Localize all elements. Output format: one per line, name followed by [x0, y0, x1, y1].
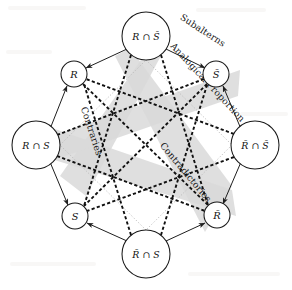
- node-bottom-label: R̄ ∩ S: [131, 249, 159, 260]
- node-lower-right-label: R̄: [212, 210, 221, 221]
- node-bottom[interactable]: R̄ ∩ S: [122, 230, 170, 278]
- node-left[interactable]: R ∩ S: [12, 121, 60, 169]
- node-lower-left[interactable]: S: [62, 203, 88, 229]
- node-right-label: R̄ ∩ S̄: [240, 140, 268, 151]
- node-top-label: R ∩ S̄: [131, 31, 159, 42]
- octagon-of-opposition-diagram: Subalterns Analogical Proportion Contrar…: [0, 0, 292, 290]
- figure-canvas: Subalterns Analogical Proportion Contrar…: [0, 0, 292, 290]
- node-lower-right[interactable]: R̄: [204, 202, 230, 228]
- nodes: R ∩ S̄ S̄ R̄ ∩ S̄ R̄ R̄ ∩ S S: [12, 12, 279, 278]
- relation-label-subalterns: Subalterns: [178, 11, 227, 48]
- node-upper-right-label: S̄: [213, 69, 220, 80]
- node-upper-left-label: R: [69, 69, 78, 80]
- node-lower-left-label: S: [72, 211, 79, 222]
- node-left-label: R ∩ S: [21, 140, 49, 151]
- node-right[interactable]: R̄ ∩ S̄: [231, 121, 279, 169]
- node-upper-right[interactable]: S̄: [203, 61, 229, 87]
- node-upper-left[interactable]: R: [61, 61, 87, 87]
- node-top[interactable]: R ∩ S̄: [122, 12, 170, 60]
